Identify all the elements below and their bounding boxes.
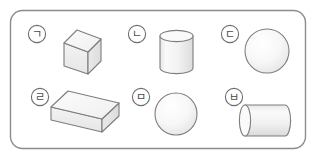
solid-cylinder-vertical <box>160 30 193 73</box>
label-text-mieum: ㅁ <box>136 91 146 104</box>
label-nieun: ㄴ <box>128 25 145 42</box>
label-text-giyeok: ㄱ <box>32 28 42 41</box>
solid-sphere-small <box>155 93 197 135</box>
label-mieum: ㅁ <box>132 88 149 105</box>
solid-sphere-large <box>245 29 289 73</box>
solid-cylinder-horizontal <box>239 105 290 136</box>
figure-root: ㄱ ㄴ ㄷ ㄹ ㅁ ㅂ <box>0 0 316 160</box>
label-digeut: ㄷ <box>221 25 238 42</box>
label-text-digeut: ㄷ <box>225 28 235 41</box>
sphere-large-outline <box>245 29 289 73</box>
label-bieup: ㅂ <box>225 88 242 105</box>
label-text-rieul: ㄹ <box>35 91 45 104</box>
solids-figure: ㄱ ㄴ ㄷ ㄹ ㅁ ㅂ <box>0 0 316 160</box>
cylinder-horizontal-body <box>245 105 291 136</box>
cylinder-horizontal-left-ellipse <box>239 105 250 136</box>
label-rieul: ㄹ <box>31 88 48 105</box>
cylinder-vertical-top-ellipse <box>160 30 193 41</box>
label-text-nieun: ㄴ <box>132 28 142 41</box>
sphere-small-outline <box>155 93 197 135</box>
label-text-bieup: ㅂ <box>229 91 239 104</box>
label-giyeok: ㄱ <box>28 25 45 42</box>
